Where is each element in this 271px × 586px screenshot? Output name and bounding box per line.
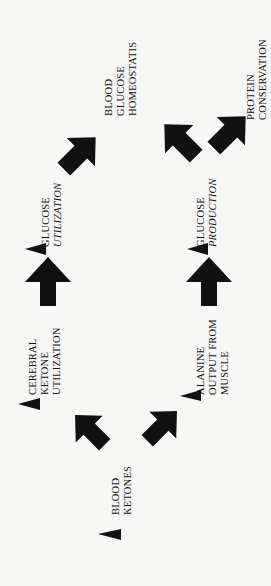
label-line: PROTEIN: [245, 39, 257, 120]
node-glucose-production: GLUCOSE PRODUCTION: [195, 178, 219, 247]
node-blood-ketones: BLOOD KETONES: [110, 466, 134, 515]
label-line: OUTPUT FROM: [207, 319, 219, 395]
label-line: ALANINE: [195, 319, 207, 395]
label-line: GLUCOSE: [195, 178, 207, 247]
node-cerebral-ketone-utilization: CEREBRAL KETONE UTILIZATION: [27, 327, 63, 395]
label-line: PRODUCTION: [207, 178, 219, 247]
node-glucose-utilization: GLUCOSE UTILIZATION: [40, 183, 64, 247]
label-line: GLUCOSE: [40, 183, 52, 247]
arrow-glucose-production-to-homeostatis-icon: [150, 110, 210, 170]
label-line: UTILIZATION: [51, 327, 63, 395]
label-line: KETONE: [39, 327, 51, 395]
arrow-ketones-to-cerebral-icon: [62, 402, 119, 459]
label-line: CONSERVATION: [257, 39, 269, 120]
label-line: CEREBRAL: [27, 327, 39, 395]
label-line: KETONES: [122, 466, 134, 515]
bullet-cerebral-icon: [18, 398, 40, 410]
arrow-glucose-utilization-to-homeostatis-icon: [50, 123, 110, 183]
arrow-alanine-to-glucose-production-icon: [186, 257, 232, 306]
label-line: UTILIZATION: [52, 183, 64, 247]
label-line: BLOOD: [110, 466, 122, 515]
arrow-ketones-to-alanine-icon: [134, 398, 191, 455]
node-blood-glucose-homeostatis: BLOOD GLUCOSE HOMEOSTATIS: [103, 42, 139, 116]
label-line: MUSCLE: [219, 319, 231, 395]
label-line: BLOOD: [103, 42, 115, 116]
node-alanine-output: ALANINE OUTPUT FROM MUSCLE: [195, 319, 231, 395]
bullet-blood-ketones-icon: [98, 529, 121, 540]
label-line: HOMEOSTATIS: [127, 42, 139, 116]
node-protein-conservation: PROTEIN CONSERVATION: [245, 39, 269, 120]
arrow-cerebral-to-glucose-utilization-icon: [25, 257, 71, 306]
diagram-canvas: BLOOD KETONES CEREBRAL KETONE UTILIZATIO…: [0, 0, 271, 586]
label-line: GLUCOSE: [115, 42, 127, 116]
